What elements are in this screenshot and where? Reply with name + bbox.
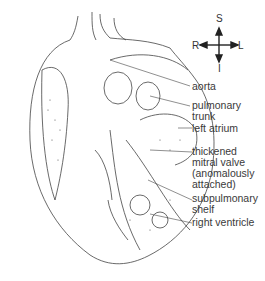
compass-inferior: I	[218, 63, 221, 74]
label-subpulmonary-shelf: subpulmonary shelf	[192, 193, 258, 215]
label-aorta: aorta	[192, 81, 216, 92]
label-pulmonary-trunk: pulmonary trunk	[192, 100, 241, 122]
label-right-ventricle: right ventricle	[192, 217, 254, 228]
orientation-compass	[200, 28, 238, 62]
compass-superior: S	[216, 13, 223, 24]
compass-left: L	[238, 40, 244, 51]
label-mitral-valve: thickened mitral valve (anomalously atta…	[192, 146, 254, 190]
compass-right: R	[192, 40, 199, 51]
label-left-atrium: left atrium	[192, 123, 238, 134]
heart-illustration	[0, 0, 265, 281]
